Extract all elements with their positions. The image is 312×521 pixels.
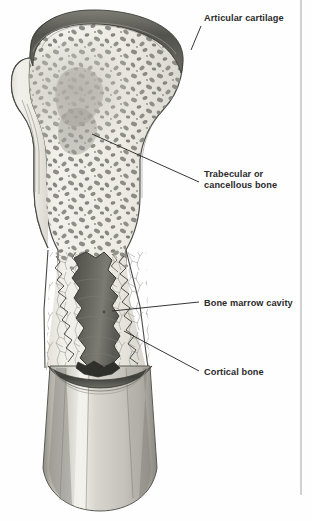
label-trabecular-bone-line1: Trabecular or — [204, 169, 264, 179]
label-cortical-bone: Cortical bone — [204, 367, 264, 377]
label-articular-cartilage: Articular cartilage — [204, 13, 284, 23]
label-bone-marrow-cavity: Bone marrow cavity — [204, 298, 294, 308]
label-trabecular-bone-line2: cancellous bone — [204, 180, 277, 190]
marrow-speck — [103, 311, 106, 314]
label-group: Articular cartilage Trabecular or cancel… — [204, 13, 294, 377]
epiphysis-head — [10, 10, 190, 280]
leader-articular-cartilage — [191, 26, 201, 50]
bone-anatomy-figure: Articular cartilage Trabecular or cancel… — [0, 0, 312, 521]
diaphysis-shaft — [43, 361, 157, 511]
bone-illustration — [10, 10, 190, 511]
bone-diagram-svg: Articular cartilage Trabecular or cancel… — [0, 0, 312, 521]
metaphysis-and-marrow — [44, 250, 150, 372]
